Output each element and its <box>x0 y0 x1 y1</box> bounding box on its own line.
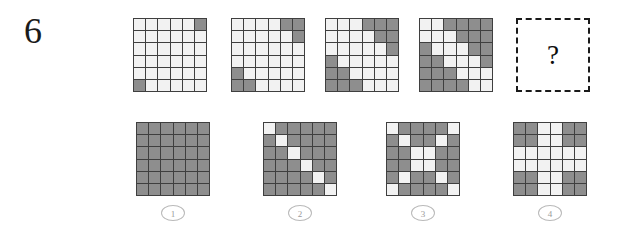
grid-cell <box>293 68 304 79</box>
grid-cell <box>134 43 145 54</box>
grid-cell <box>399 172 410 183</box>
grid-cell <box>350 68 361 79</box>
grid-cell <box>161 147 172 158</box>
grid-cell <box>538 147 549 158</box>
grid-cell <box>325 123 336 134</box>
grid-cell <box>411 123 422 134</box>
grid-cell <box>387 135 398 146</box>
grid-cell <box>137 123 148 134</box>
grid-cell <box>198 172 209 183</box>
grid-cell <box>244 43 255 54</box>
grid-cell <box>526 184 537 195</box>
answer-slot[interactable]: ? <box>516 18 590 92</box>
option-3-label[interactable]: 3 <box>411 205 435 221</box>
grid-cell <box>301 147 312 158</box>
grid-cell <box>387 80 398 91</box>
grid-cell <box>551 160 562 171</box>
grid-cell <box>387 56 398 67</box>
grid-cell <box>575 123 586 134</box>
grid-cell <box>448 160 459 171</box>
grid-cell <box>301 123 312 134</box>
grid-cell <box>171 19 182 30</box>
grid-cell <box>149 135 160 146</box>
grid-cell <box>363 19 374 30</box>
grid-cell <box>161 123 172 134</box>
option-1-label[interactable]: 1 <box>161 205 185 221</box>
grid-cell <box>137 172 148 183</box>
option-2[interactable]: 2 <box>263 122 337 221</box>
grid-cell <box>350 19 361 30</box>
grid-cell <box>198 184 209 195</box>
grid-cell <box>198 147 209 158</box>
option-3-grid <box>386 122 460 196</box>
grid-cell <box>183 56 194 67</box>
grid-cell <box>301 135 312 146</box>
grid-cell <box>411 172 422 183</box>
grid-cell <box>232 68 243 79</box>
grid-cell <box>269 56 280 67</box>
option-4-label[interactable]: 4 <box>538 205 562 221</box>
grid-cell <box>134 19 145 30</box>
sequence-grid-2 <box>231 18 305 92</box>
grid-cell <box>288 123 299 134</box>
grid-cell <box>288 147 299 158</box>
grid-cell <box>399 184 410 195</box>
grid-cell <box>174 160 185 171</box>
grid-cell <box>420 31 431 42</box>
grid-cell <box>161 184 172 195</box>
sequence-grid-1-grid <box>133 18 207 92</box>
grid-cell <box>276 135 287 146</box>
grid-cell <box>186 184 197 195</box>
grid-cell <box>551 184 562 195</box>
option-2-label[interactable]: 2 <box>288 205 312 221</box>
grid-cell <box>276 123 287 134</box>
grid-cell <box>161 172 172 183</box>
grid-cell <box>174 147 185 158</box>
grid-cell <box>457 31 468 42</box>
grid-cell <box>387 123 398 134</box>
grid-cell <box>350 43 361 54</box>
grid-cell <box>326 68 337 79</box>
grid-cell <box>232 80 243 91</box>
grid-cell <box>149 184 160 195</box>
grid-cell <box>174 135 185 146</box>
grid-cell <box>256 80 267 91</box>
option-3[interactable]: 3 <box>386 122 460 221</box>
grid-cell <box>436 123 447 134</box>
sequence-grid-4-grid <box>419 18 493 92</box>
grid-cell <box>338 31 349 42</box>
grid-cell <box>293 56 304 67</box>
grid-cell <box>269 80 280 91</box>
grid-cell <box>514 160 525 171</box>
grid-cell <box>264 123 275 134</box>
grid-cell <box>420 56 431 67</box>
grid-cell <box>158 68 169 79</box>
grid-cell <box>232 43 243 54</box>
grid-cell <box>195 31 206 42</box>
grid-cell <box>183 43 194 54</box>
grid-cell <box>526 160 537 171</box>
grid-cell <box>276 147 287 158</box>
grid-cell <box>146 56 157 67</box>
grid-cell <box>469 19 480 30</box>
sequence-grid-2-grid <box>231 18 305 92</box>
grid-cell <box>420 68 431 79</box>
grid-cell <box>387 19 398 30</box>
grid-cell <box>183 19 194 30</box>
grid-cell <box>448 172 459 183</box>
grid-cell <box>469 80 480 91</box>
grid-cell <box>444 80 455 91</box>
grid-cell <box>264 184 275 195</box>
grid-cell <box>424 123 435 134</box>
grid-cell <box>174 184 185 195</box>
option-4[interactable]: 4 <box>513 122 587 221</box>
grid-cell <box>538 160 549 171</box>
grid-cell <box>288 184 299 195</box>
grid-cell <box>281 31 292 42</box>
grid-cell <box>375 80 386 91</box>
option-1[interactable]: 1 <box>136 122 210 221</box>
grid-cell <box>563 147 574 158</box>
grid-cell <box>481 68 492 79</box>
grid-cell <box>146 80 157 91</box>
grid-cell <box>481 56 492 67</box>
